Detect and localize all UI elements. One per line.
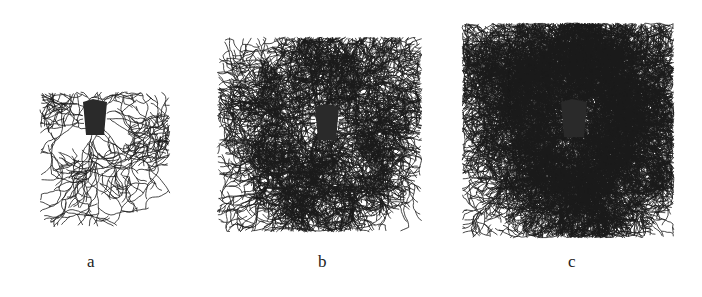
- panel-a: [40, 92, 170, 227]
- central-block: [561, 99, 587, 137]
- panel-label-c: c: [568, 252, 576, 272]
- panel-b: [217, 37, 422, 232]
- panel-label-a: a: [87, 252, 95, 272]
- root-growth-figure: [0, 0, 702, 297]
- central-block: [315, 104, 339, 140]
- panel-c: [462, 23, 674, 238]
- central-block: [83, 99, 107, 135]
- panel-label-b: b: [318, 252, 327, 272]
